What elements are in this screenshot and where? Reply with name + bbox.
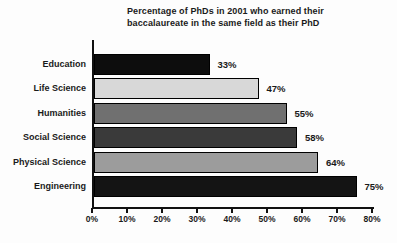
x-tick-mark-10 xyxy=(126,208,128,213)
bar-engineering xyxy=(94,176,357,197)
value-label-engineering: 75% xyxy=(365,176,384,197)
value-label-physical-science: 64% xyxy=(326,152,345,173)
category-label-education: Education xyxy=(0,54,86,75)
value-label-social-science: 58% xyxy=(305,127,324,148)
chart-title-line2: baccalaureate in the same field as their… xyxy=(127,17,324,29)
x-tick-label-0: 0% xyxy=(74,214,110,224)
x-tick-mark-40 xyxy=(231,208,233,213)
x-tick-label-40: 40% xyxy=(214,214,250,224)
category-label-humanities: Humanities xyxy=(0,103,86,124)
category-label-engineering: Engineering xyxy=(0,176,86,197)
value-label-life-science: 47% xyxy=(267,78,286,99)
x-tick-mark-30 xyxy=(196,208,198,213)
bar-education xyxy=(94,54,210,75)
x-tick-mark-0 xyxy=(91,208,93,213)
x-tick-mark-20 xyxy=(161,208,163,213)
bar-physical-science xyxy=(94,152,318,173)
x-tick-label-80: 80% xyxy=(354,214,390,224)
value-label-education: 33% xyxy=(218,54,237,75)
bar-humanities xyxy=(94,103,287,124)
chart-title-line1: Percentage of PhDs in 2001 who earned th… xyxy=(127,5,324,17)
x-tick-label-10: 10% xyxy=(109,214,145,224)
x-tick-label-30: 30% xyxy=(179,214,215,224)
value-label-humanities: 55% xyxy=(295,103,314,124)
x-tick-label-70: 70% xyxy=(319,214,355,224)
category-label-life-science: Life Science xyxy=(0,78,86,99)
x-tick-label-60: 60% xyxy=(284,214,320,224)
x-tick-label-20: 20% xyxy=(144,214,180,224)
bar-life-science xyxy=(94,78,259,99)
bar-social-science xyxy=(94,127,297,148)
category-label-social-science: Social Science xyxy=(0,127,86,148)
x-axis-line xyxy=(92,207,374,209)
x-tick-label-50: 50% xyxy=(249,214,285,224)
x-tick-mark-70 xyxy=(336,208,338,213)
category-label-physical-science: Physical Science xyxy=(0,152,86,173)
x-tick-mark-50 xyxy=(266,208,268,213)
x-tick-mark-60 xyxy=(301,208,303,213)
chart-title: Percentage of PhDs in 2001 who earned th… xyxy=(127,5,324,29)
bar-chart-figure: Percentage of PhDs in 2001 who earned th… xyxy=(0,0,397,243)
x-tick-mark-80 xyxy=(371,208,373,213)
